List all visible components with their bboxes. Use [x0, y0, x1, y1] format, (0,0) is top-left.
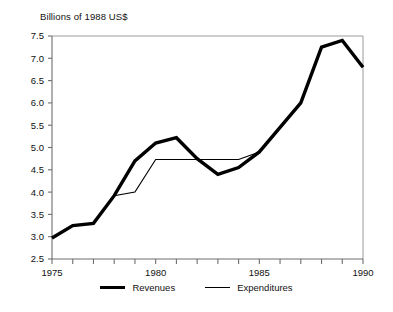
legend-label-expenditures: Expenditures [237, 282, 292, 293]
line-chart-plot: 2.53.03.54.04.55.05.56.06.57.07.5 197519… [0, 0, 393, 312]
y-tick-label: 5.0 [31, 142, 44, 153]
legend-label-revenues: Revenues [132, 282, 175, 293]
chart-legend: Revenues Expenditures [0, 282, 393, 293]
y-tick-label: 7.0 [31, 53, 44, 64]
series-line-revenues [52, 40, 363, 238]
legend-swatch-revenues-icon [100, 286, 125, 289]
y-tick-label: 4.0 [31, 187, 44, 198]
legend-item-expenditures: Expenditures [205, 282, 292, 293]
y-tick-label: 2.5 [31, 253, 44, 264]
chart-figure: Billions of 1988 US$ 2.53.03.54.04.55.05… [0, 0, 393, 312]
series-group [52, 40, 363, 238]
y-tick-label: 5.5 [31, 120, 44, 131]
x-tick-label: 1990 [352, 267, 373, 278]
y-tick-label: 6.0 [31, 97, 44, 108]
legend-swatch-expenditures-icon [205, 287, 230, 288]
y-tick-label: 4.5 [31, 164, 44, 175]
x-ticks-group: 1975198019851990 [41, 259, 373, 278]
y-tick-label: 7.5 [31, 30, 44, 41]
x-tick-label: 1980 [145, 267, 166, 278]
y-ticks-group: 2.53.03.54.04.55.05.56.06.57.07.5 [31, 30, 52, 264]
x-tick-label: 1985 [249, 267, 270, 278]
axes-group [52, 36, 363, 259]
x-tick-label: 1975 [41, 267, 62, 278]
y-tick-label: 6.5 [31, 75, 44, 86]
legend-item-revenues: Revenues [100, 282, 175, 293]
y-tick-label: 3.5 [31, 209, 44, 220]
series-line-expenditures [52, 40, 363, 238]
y-tick-label: 3.0 [31, 231, 44, 242]
